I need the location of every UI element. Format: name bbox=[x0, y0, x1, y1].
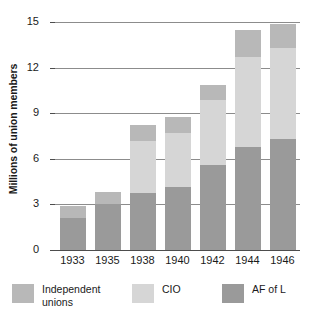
gridline-12 bbox=[55, 68, 300, 69]
y-axis-title: Millions of union members bbox=[2, 0, 24, 258]
bar-segment-cio bbox=[130, 141, 156, 193]
legend-label: CIO bbox=[162, 283, 181, 296]
y-tick-mark-9 bbox=[50, 113, 55, 114]
y-tick-label: 15 bbox=[17, 15, 39, 27]
x-tick-label-1944: 1944 bbox=[228, 254, 268, 266]
plot-area: 03691215 bbox=[55, 22, 300, 250]
gridline-9 bbox=[55, 113, 300, 114]
legend-item-independent-unions: Independent unions bbox=[12, 283, 100, 308]
bar-segment-af-of-l bbox=[235, 147, 261, 250]
x-tick-label-1935: 1935 bbox=[88, 254, 128, 266]
chart-legend: Independent unionsCIOAF of L bbox=[0, 283, 316, 325]
union-membership-chart: Millions of union members 03691215 19331… bbox=[0, 0, 316, 325]
y-axis-title-text: Millions of union members bbox=[7, 64, 19, 195]
bar-segment-af-of-l bbox=[60, 218, 86, 250]
bar-segment-independent-unions bbox=[270, 24, 296, 48]
bar-segment-af-of-l bbox=[270, 139, 296, 250]
legend-swatch-icon bbox=[12, 284, 34, 303]
legend-item-af-of-l: AF of L bbox=[222, 283, 286, 303]
bar-segment-cio bbox=[270, 48, 296, 139]
bar-segment-af-of-l bbox=[95, 204, 121, 250]
bar-segment-independent-unions bbox=[130, 125, 156, 140]
legend-swatch-icon bbox=[222, 284, 244, 303]
y-tick-mark-12 bbox=[50, 68, 55, 69]
y-tick-label: 0 bbox=[17, 243, 39, 255]
y-tick-label: 3 bbox=[17, 197, 39, 209]
bar-segment-independent-unions bbox=[95, 192, 121, 204]
legend-swatch-icon bbox=[132, 284, 154, 303]
bar-1942 bbox=[200, 85, 226, 250]
legend-label: Independent unions bbox=[42, 283, 100, 308]
y-tick-mark-3 bbox=[50, 204, 55, 205]
bar-segment-cio bbox=[235, 57, 261, 147]
x-tick-label-1942: 1942 bbox=[193, 254, 233, 266]
x-tick-label-1938: 1938 bbox=[123, 254, 163, 266]
bar-1946 bbox=[270, 24, 296, 250]
bar-segment-independent-unions bbox=[60, 206, 86, 218]
bar-segment-af-of-l bbox=[130, 193, 156, 250]
x-tick-label-1940: 1940 bbox=[158, 254, 198, 266]
y-tick-label: 6 bbox=[17, 152, 39, 164]
bar-segment-af-of-l bbox=[165, 187, 191, 250]
bar-1933 bbox=[60, 206, 86, 250]
gridline-0 bbox=[55, 250, 300, 251]
x-tick-label-1946: 1946 bbox=[263, 254, 303, 266]
y-tick-label: 12 bbox=[17, 61, 39, 73]
legend-label: AF of L bbox=[252, 283, 286, 296]
bar-1940 bbox=[165, 117, 191, 250]
y-tick-label: 9 bbox=[17, 106, 39, 118]
bar-segment-af-of-l bbox=[200, 165, 226, 250]
bar-segment-independent-unions bbox=[165, 117, 191, 133]
y-tick-mark-6 bbox=[50, 159, 55, 160]
bar-segment-cio bbox=[165, 133, 191, 187]
x-tick-label-1933: 1933 bbox=[53, 254, 93, 266]
bar-segment-cio bbox=[200, 100, 226, 165]
gridline-15 bbox=[55, 22, 300, 23]
y-tick-mark-15 bbox=[50, 22, 55, 23]
bar-1938 bbox=[130, 125, 156, 250]
bar-1944 bbox=[235, 30, 261, 250]
bar-segment-independent-unions bbox=[200, 85, 226, 99]
bar-1935 bbox=[95, 192, 121, 250]
y-tick-mark-0 bbox=[50, 250, 55, 251]
legend-item-cio: CIO bbox=[132, 283, 181, 303]
bar-segment-independent-unions bbox=[235, 30, 261, 57]
